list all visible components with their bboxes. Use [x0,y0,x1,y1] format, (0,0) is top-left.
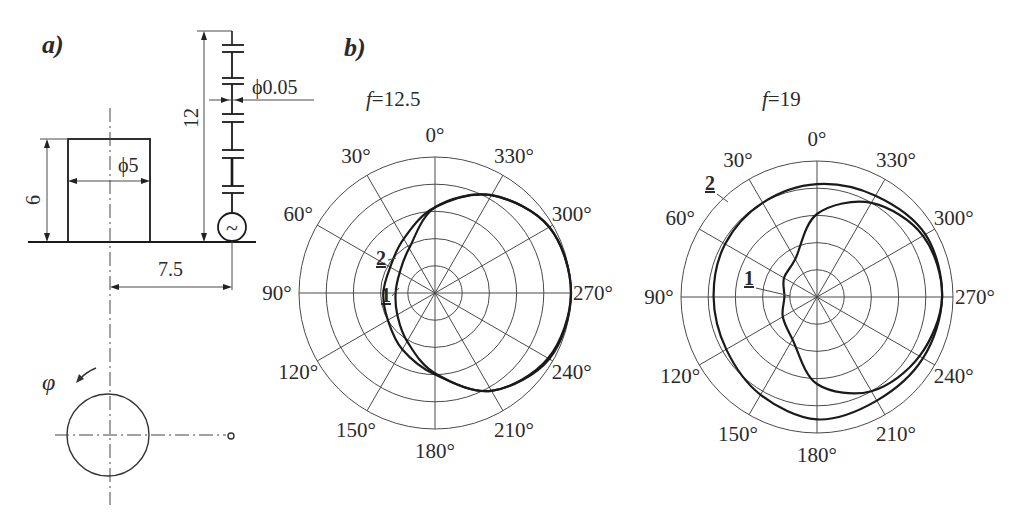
angle-tick-label: 60° [665,206,694,230]
panel-b-label: b) [344,33,366,62]
angle-tick-label: 180° [415,439,455,463]
arrow-down-icon [44,233,50,242]
angle-tick-label: 150° [718,422,758,446]
angle-tick-label: 210° [876,422,916,446]
angle-tick-label: 180° [797,443,837,467]
figure-canvas: a) 6 ϕ5 [0,0,1035,513]
angle-tick-label: 90° [262,281,291,305]
angle-tick-label: 330° [876,148,916,172]
chart-title: f=19 [762,87,801,111]
panel-a-label: a) [42,30,64,59]
angle-tick-label: 300° [934,206,974,230]
capacitor-chain [222,45,244,213]
angle-tick-label: 270° [573,281,613,305]
polar-spoke [317,293,435,361]
curve-label-2: 2 [376,247,386,269]
series-2-curve [714,184,943,420]
angle-tick-label: 330° [494,144,534,168]
height-dim-label: 6 [22,195,44,205]
panel-a: a) 6 ϕ5 [22,30,314,505]
angle-tick-label: 270° [955,285,995,309]
polar-spoke [435,293,553,361]
polar-spoke [817,297,885,415]
angle-tick-label: 120° [660,364,700,388]
polar-spoke [435,175,503,293]
angle-phi-label: φ [42,369,55,395]
angle-tick-label: 240° [552,360,592,384]
polar-spoke [435,225,553,293]
polar-spoke [367,293,435,411]
angle-tick-label: 210° [494,418,534,442]
polar-spoke [817,179,885,297]
arrow-right-icon [221,97,229,103]
polar-chart-f19: f=19 0°30°60°90°120°150°180°210°240°270°… [644,87,995,467]
ac-source-symbol: ~ [226,215,238,240]
polar-spoke [435,293,503,411]
arrow-up-icon [201,31,207,40]
angle-tick-label: 120° [278,360,318,384]
curve-label-2: 2 [705,172,715,194]
wire-height-dim-label: 12 [180,108,202,128]
curve-label-1: 1 [744,267,754,289]
polar-spoke [817,229,935,297]
angle-tick-label: 150° [336,418,376,442]
angle-tick-label: 0° [426,123,445,147]
wire-diameter-dim-label: ϕ0.05 [252,76,298,99]
angle-tick-label: 60° [283,202,312,226]
polar-chart-f12-5: f=12.5 0°30°60°90°120°150°180°210°240°27… [262,87,613,463]
arrow-left-icon [68,178,77,184]
angle-tick-label: 30° [341,144,370,168]
arrow-right-icon [141,178,150,184]
angle-tick-label: 30° [723,148,752,172]
arrow-right-icon [223,284,232,290]
offset-dim-label: 7.5 [158,258,183,280]
arrow-up-icon [44,139,50,148]
angle-tick-label: 0° [808,127,827,151]
polar-spoke [367,175,435,293]
angle-tick-label: 240° [934,364,974,388]
arrow-down-icon [201,233,207,242]
angle-tick-label: 300° [552,202,592,226]
wire-position-dot [228,433,234,439]
angle-tick-label: 90° [644,285,673,309]
chart-title: f=12.5 [366,87,420,111]
polar-spoke [817,297,935,365]
arrow-left-icon [235,97,243,103]
rotation-arrow-icon [80,368,96,379]
diameter-dim-label: ϕ5 [118,154,139,177]
arrow-left-icon [110,284,119,290]
